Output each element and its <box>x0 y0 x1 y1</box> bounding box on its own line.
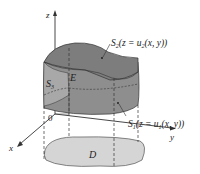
s2-point <box>101 57 103 59</box>
s2-label: S2(z = u2(x, y)) <box>111 38 167 49</box>
s1-label: S1(z = u1(x, y)) <box>128 119 184 130</box>
x-axis-label: x <box>8 143 13 153</box>
y-axis-label: y <box>169 132 174 142</box>
z-axis-label: z <box>45 10 50 20</box>
region-label: E <box>69 72 76 83</box>
origin-label: 0 <box>48 113 53 123</box>
s1-point <box>117 102 119 104</box>
domain-label: D <box>88 149 97 160</box>
diagram-canvas: z x y 0 D S3 E S2(z = u2(x, y)) S1(z = u… <box>0 0 200 174</box>
